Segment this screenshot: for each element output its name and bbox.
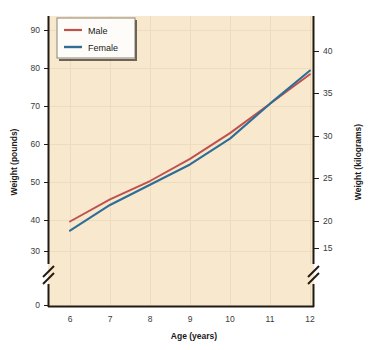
x-tick-label-7: 7 — [108, 314, 113, 324]
right-tick-label-15: 15 — [323, 243, 333, 253]
left-axis-break-icon — [43, 264, 55, 284]
y-axis-title-right: Weight (kilograms) — [353, 124, 363, 201]
x-tick-label-9: 9 — [188, 314, 193, 324]
left-tick-label-0: 0 — [35, 300, 40, 310]
x-tick-label-8: 8 — [148, 314, 153, 324]
left-tick-label-90: 90 — [31, 25, 41, 35]
chart-legend[interactable]: Male Female — [57, 18, 137, 61]
y-axis-title-left: Weight (pounds) — [9, 128, 19, 195]
right-tick-label-30: 30 — [323, 131, 333, 141]
right-axis-break-icon — [308, 264, 319, 284]
right-tick-label-25: 25 — [323, 173, 333, 183]
legend-label-male: Male — [88, 26, 108, 36]
right-tick-label-20: 20 — [323, 216, 333, 226]
left-tick-label-60: 60 — [31, 139, 41, 149]
left-tick-label-30: 30 — [31, 246, 41, 256]
x-axis-title: Age (years) — [171, 331, 217, 341]
x-tick-label-12: 12 — [305, 314, 315, 324]
x-tick-label-10: 10 — [225, 314, 235, 324]
legend-label-female: Female — [88, 43, 118, 53]
x-tick-label-6: 6 — [68, 314, 73, 324]
legend-shadow-bottom — [59, 59, 137, 61]
left-tick-label-40: 40 — [31, 215, 41, 225]
left-tick-label-50: 50 — [31, 177, 41, 187]
right-tick-label-35: 35 — [323, 88, 333, 98]
right-tick-label-40: 40 — [323, 46, 333, 56]
legend-shadow-right — [135, 20, 137, 60]
left-tick-label-70: 70 — [31, 101, 41, 111]
chart-svg: 908070605040300 403530252015 6789101112 … — [0, 0, 375, 350]
left-tick-label-80: 80 — [31, 63, 41, 73]
weight-by-age-line-chart: 908070605040300 403530252015 6789101112 … — [0, 0, 375, 350]
x-tick-label-11: 11 — [266, 314, 275, 324]
